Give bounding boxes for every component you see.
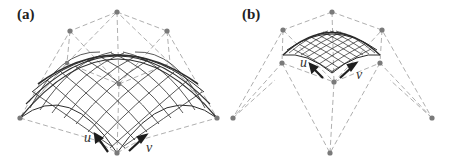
u-axis-label: u (84, 130, 91, 145)
surface-diagram-b: u v (225, 0, 450, 165)
panel-label-a: (a) (17, 6, 35, 23)
v-axis-label: v (356, 67, 363, 82)
u-axis-label: u (300, 55, 307, 70)
v-arrowhead-icon (138, 135, 146, 142)
v-arrowhead-icon (348, 63, 356, 70)
panel-a: u v (a) (0, 0, 225, 165)
v-axis-label: v (146, 140, 153, 155)
surface-mesh-b (283, 31, 380, 73)
panel-b: u v (b) (225, 0, 450, 165)
panel-label-b: (b) (242, 6, 260, 23)
surface-diagram-a: u v (0, 0, 225, 165)
